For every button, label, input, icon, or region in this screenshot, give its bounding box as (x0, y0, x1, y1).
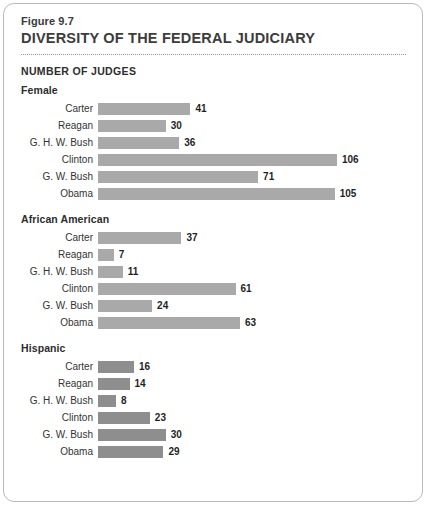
bar-value-label: 106 (342, 154, 359, 165)
bar-row-label: G. H. W. Bush (21, 137, 98, 149)
bar (98, 171, 258, 183)
bar-wrapper: 16 (98, 361, 422, 373)
bar (98, 361, 134, 373)
bar-value-label: 36 (184, 137, 195, 148)
bar-value-label: 37 (186, 232, 197, 243)
bar-row: G. W. Bush30 (21, 426, 422, 443)
bar (98, 249, 114, 261)
bar-row: G. H. W. Bush8 (21, 392, 422, 409)
figure-header: Figure 9.7 DIVERSITY OF THE FEDERAL JUDI… (4, 4, 422, 47)
bar-value-label: 41 (195, 103, 206, 114)
bar-row-label: Reagan (21, 120, 98, 132)
bar-wrapper: 11 (98, 266, 422, 278)
bar-row: Clinton23 (21, 409, 422, 426)
bar-group-title: African American (21, 213, 422, 225)
bar (98, 154, 337, 166)
bar-row: G. H. W. Bush11 (21, 263, 422, 280)
bar-group-title: Hispanic (21, 342, 422, 354)
bar-row: Reagan7 (21, 246, 422, 263)
bar-row-label: G. W. Bush (21, 171, 98, 183)
bar-value-label: 71 (263, 171, 274, 182)
bar-row-label: Carter (21, 361, 98, 373)
bar (98, 412, 150, 424)
bar-wrapper: 24 (98, 300, 422, 312)
bar-wrapper: 23 (98, 412, 422, 424)
bar (98, 188, 335, 200)
bar-row-label: Reagan (21, 378, 98, 390)
bar-group: African AmericanCarter37Reagan7G. H. W. … (21, 213, 422, 331)
bar (98, 378, 130, 390)
bar-row-label: Obama (21, 317, 98, 329)
bar-row-label: Reagan (21, 249, 98, 261)
bar-value-label: 63 (245, 317, 256, 328)
bar-group-title: Female (21, 84, 422, 96)
bar-row: G. W. Bush24 (21, 297, 422, 314)
bar-value-label: 29 (168, 446, 179, 457)
bar-value-label: 105 (340, 188, 357, 199)
bar-row-label: G. H. W. Bush (21, 266, 98, 278)
bar-wrapper: 37 (98, 232, 422, 244)
bar-row: Carter16 (21, 358, 422, 375)
bar-value-label: 30 (171, 429, 182, 440)
bar-wrapper: 8 (98, 395, 422, 407)
bar-row-label: Carter (21, 232, 98, 244)
bar-wrapper: 36 (98, 137, 422, 149)
bar-row: Obama63 (21, 314, 422, 331)
bar-value-label: 24 (157, 300, 168, 311)
bar-wrapper: 29 (98, 446, 422, 458)
bar-row: Carter41 (21, 100, 422, 117)
bar (98, 266, 123, 278)
bar-row: Clinton106 (21, 151, 422, 168)
bar-row: Clinton61 (21, 280, 422, 297)
bar-row: Obama105 (21, 185, 422, 202)
bar (98, 395, 116, 407)
bar-group: FemaleCarter41Reagan30G. H. W. Bush36Cli… (21, 84, 422, 202)
bar (98, 317, 240, 329)
bar (98, 429, 166, 441)
bar-value-label: 14 (135, 378, 146, 389)
bar-row: Carter37 (21, 229, 422, 246)
bar (98, 300, 152, 312)
bar (98, 283, 236, 295)
figure-label: Figure 9.7 (21, 15, 422, 28)
bar-row-label: Clinton (21, 154, 98, 166)
bar-wrapper: 41 (98, 103, 422, 115)
bar-value-label: 30 (171, 120, 182, 131)
bar-row-label: Carter (21, 103, 98, 115)
bar-row: Reagan14 (21, 375, 422, 392)
bar-value-label: 8 (121, 395, 127, 406)
bar-value-label: 11 (128, 266, 139, 277)
bar (98, 103, 190, 115)
bar-group: HispanicCarter16Reagan14G. H. W. Bush8Cl… (21, 342, 422, 460)
bar-row: G. H. W. Bush36 (21, 134, 422, 151)
bar-groups: FemaleCarter41Reagan30G. H. W. Bush36Cli… (21, 84, 422, 460)
bar (98, 120, 166, 132)
bar-wrapper: 71 (98, 171, 422, 183)
bar-row-label: Obama (21, 446, 98, 458)
bar-wrapper: 7 (98, 249, 422, 261)
bar-row-label: Clinton (21, 412, 98, 424)
bar-value-label: 23 (155, 412, 166, 423)
bar-value-label: 7 (119, 249, 125, 260)
bar (98, 446, 163, 458)
bar-wrapper: 30 (98, 429, 422, 441)
chart-axis-title: NUMBER OF JUDGES (21, 65, 422, 77)
bar-value-label: 16 (139, 361, 150, 372)
bar-wrapper: 63 (98, 317, 422, 329)
bar (98, 232, 181, 244)
bar-row-label: G. W. Bush (21, 300, 98, 312)
bar-wrapper: 14 (98, 378, 422, 390)
figure-card: Figure 9.7 DIVERSITY OF THE FEDERAL JUDI… (3, 3, 423, 502)
bar (98, 137, 179, 149)
bar-row-label: Obama (21, 188, 98, 200)
bar-wrapper: 61 (98, 283, 422, 295)
bar-value-label: 61 (241, 283, 252, 294)
bar-wrapper: 30 (98, 120, 422, 132)
chart-area: NUMBER OF JUDGES FemaleCarter41Reagan30G… (4, 56, 422, 460)
bar-row-label: G. W. Bush (21, 429, 98, 441)
bar-row-label: G. H. W. Bush (21, 395, 98, 407)
bar-wrapper: 105 (98, 188, 422, 200)
bar-row-label: Clinton (21, 283, 98, 295)
bar-row: Obama29 (21, 443, 422, 460)
bar-wrapper: 106 (98, 154, 422, 166)
